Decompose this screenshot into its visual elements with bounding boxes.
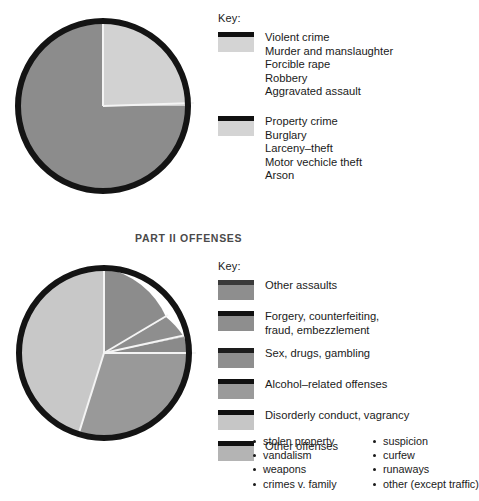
key-line: Forgery, counterfeiting, (265, 310, 379, 324)
key-lines-violent-crime: Violent crime Murder and manslaughter Fo… (265, 30, 393, 99)
part-ii-pie-svg (16, 265, 196, 445)
other-assaults-swatch (218, 280, 254, 300)
key-title: Key: (218, 12, 393, 24)
key-line: Murder and manslaughter (265, 45, 393, 59)
key-line: Forcible rape (265, 58, 393, 72)
key-line: Alcohol–related offenses (265, 378, 387, 392)
key-lines-other-assaults: Other assaults (265, 278, 337, 293)
key-line: Disorderly conduct, vagrancy (265, 409, 409, 423)
key-line: Other assaults (265, 279, 337, 293)
other-offenses-sub-bullets: stolen property suspicion vandalism curf… (252, 434, 479, 491)
violent-crime-swatch (218, 32, 254, 52)
key-line: Robbery (265, 72, 393, 86)
sub-bullet: curfew (372, 448, 479, 462)
key-line: Arson (265, 169, 362, 183)
key-group-disorderly-conduct: Disorderly conduct, vagrancy (218, 408, 409, 430)
swatch-fill (218, 316, 254, 331)
swatch-fill (218, 121, 254, 136)
other-offenses-swatch (218, 441, 254, 461)
sub-bullet: stolen property (252, 434, 358, 448)
forgery-swatch (218, 311, 254, 331)
key-lines-forgery: Forgery, counterfeiting, fraud, embezzle… (265, 309, 379, 337)
key-line: fraud, embezzlement (265, 324, 379, 338)
swatch-fill (218, 446, 254, 461)
key-group-sex-drugs-gambling: Sex, drugs, gambling (218, 346, 409, 368)
sub-bullet: vandalism (252, 448, 358, 462)
swatch-fill (218, 384, 254, 399)
key-line: Motor vechicle theft (265, 156, 362, 170)
property-crime-swatch (218, 116, 254, 136)
key-title: Key: (218, 260, 409, 272)
key-line: Violent crime (265, 31, 393, 45)
swatch-fill (218, 353, 254, 368)
swatch-fill (218, 415, 254, 430)
key-lines-disorderly-conduct: Disorderly conduct, vagrancy (265, 408, 409, 423)
part-i-pie-chart (12, 15, 194, 197)
part-ii-pie-chart (16, 265, 196, 445)
key-lines-sex-drugs-gambling: Sex, drugs, gambling (265, 346, 370, 361)
disorderly-conduct-swatch (218, 410, 254, 430)
part-i-pie-svg (12, 15, 194, 197)
alcohol-related-swatch (218, 379, 254, 399)
swatch-fill (218, 37, 254, 52)
sub-bullet: weapons (252, 462, 358, 476)
key-group-other-assaults: Other assaults (218, 278, 409, 300)
key-line: Burglary (265, 129, 362, 143)
key-line: Aggravated assault (265, 85, 393, 99)
figure-part-i: Key: Violent crime Murder and manslaught… (0, 0, 465, 215)
swatch-fill (218, 285, 254, 300)
key-group-violent-crime: Violent crime Murder and manslaughter Fo… (218, 30, 393, 99)
sub-bullet: crimes v. family (252, 477, 358, 491)
key-group-property-crime: Property crime Burglary Larceny–theft Mo… (218, 114, 393, 183)
part-ii-key: Key: Other assaults Forgery, counterfeit… (218, 260, 409, 463)
key-lines-alcohol-related: Alcohol–related offenses (265, 377, 387, 392)
figure-part-ii: Key: Other assaults Forgery, counterfeit… (0, 262, 465, 501)
key-lines-property-crime: Property crime Burglary Larceny–theft Mo… (265, 114, 362, 183)
key-line: Sex, drugs, gambling (265, 347, 370, 361)
sub-bullet: other (except traffic) (372, 477, 479, 491)
key-group-forgery: Forgery, counterfeiting, fraud, embezzle… (218, 309, 409, 337)
sub-bullet: suspicion (372, 434, 479, 448)
key-line: Larceny–theft (265, 142, 362, 156)
sub-bullet: runaways (372, 462, 479, 476)
sex-drugs-gambling-swatch (218, 348, 254, 368)
key-line: Property crime (265, 115, 362, 129)
part-ii-heading: PART II OFFENSES (135, 232, 242, 244)
key-group-alcohol-related: Alcohol–related offenses (218, 377, 409, 399)
part-i-key: Key: Violent crime Murder and manslaught… (218, 12, 393, 185)
